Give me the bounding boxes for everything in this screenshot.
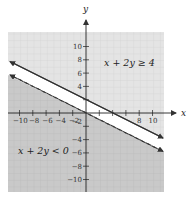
- upper-region-label: x + 2y ≥ 4: [104, 57, 155, 68]
- svg-text:6: 6: [78, 70, 83, 78]
- svg-text:−6: −6: [42, 117, 53, 125]
- svg-text:10: 10: [73, 43, 82, 51]
- svg-text:4: 4: [78, 83, 83, 91]
- svg-text:10: 10: [149, 117, 158, 125]
- svg-text:−8: −8: [72, 163, 82, 171]
- svg-text:−4: −4: [72, 136, 83, 144]
- x-axis-label: x: [181, 108, 186, 118]
- svg-text:−10: −10: [13, 117, 28, 125]
- svg-text:−2: −2: [72, 118, 82, 126]
- inequality-graph: x y −10 −8 −6 −4 −2 8 10 10 8: [0, 0, 192, 198]
- y-axis-label: y: [82, 4, 89, 14]
- svg-text:−4: −4: [56, 117, 67, 125]
- svg-text:8: 8: [137, 117, 141, 125]
- lower-region-label: x + 2y < 0: [18, 145, 69, 156]
- svg-text:−8: −8: [29, 117, 39, 125]
- svg-text:−6: −6: [72, 149, 83, 157]
- svg-text:−10: −10: [67, 176, 82, 184]
- svg-text:8: 8: [78, 56, 82, 64]
